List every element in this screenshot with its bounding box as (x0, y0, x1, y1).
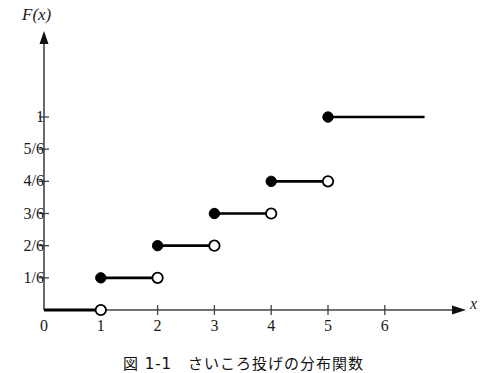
y-tick-label-1-6: 1/6 (24, 270, 44, 286)
y-axis-arrow-icon (40, 31, 49, 44)
open-point-2 (209, 240, 219, 250)
figure-container: F(x) x 1/62/63/64/65/610123456 図 1-1 さいこ… (0, 0, 487, 373)
y-axis-title: F(x) (22, 6, 51, 23)
x-tick-label-2: 2 (154, 318, 162, 334)
closed-point-4 (266, 176, 276, 186)
y-tick-label-5-6: 5/6 (24, 141, 44, 157)
figure-caption: 図 1-1 さいころ投げの分布関数 (0, 352, 487, 373)
closed-point-5 (323, 112, 333, 122)
x-tick-label-4: 4 (267, 318, 275, 334)
closed-point-1 (96, 273, 106, 283)
x-tick-label-0: 0 (40, 318, 48, 334)
x-tick-label-6: 6 (381, 318, 389, 334)
y-tick-label-2-6: 2/6 (24, 238, 44, 254)
closed-point-2 (152, 240, 162, 250)
y-tick-label-3-6: 3/6 (24, 206, 44, 222)
open-point-4 (323, 176, 333, 186)
x-tick-label-5: 5 (324, 318, 332, 334)
closed-point-3 (209, 208, 219, 218)
x-tick-label-3: 3 (210, 318, 218, 334)
step-function-plot (0, 0, 487, 373)
y-tick-label-4-6: 4/6 (24, 173, 44, 189)
y-tick-label-1: 1 (36, 109, 44, 125)
open-point-3 (266, 208, 276, 218)
x-tick-label-1: 1 (97, 318, 105, 334)
x-axis-title: x (470, 296, 477, 312)
open-point-0 (96, 305, 106, 315)
open-point-1 (152, 273, 162, 283)
x-axis-arrow-icon (452, 306, 466, 315)
